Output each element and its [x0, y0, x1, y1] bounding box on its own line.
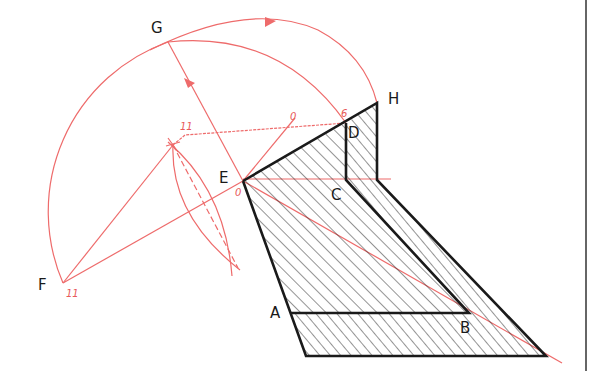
label-F: F: [38, 276, 47, 294]
label-G: G: [151, 19, 163, 37]
line-E-G: [168, 42, 243, 181]
arrow-up-icon: [184, 78, 195, 88]
construction-diagram: 11 0 6 0 11 G H D E C A B F: [0, 0, 595, 371]
lens-arc-right: [168, 142, 232, 276]
label-C: C: [331, 186, 341, 204]
mark-zero-E: 0: [235, 187, 241, 198]
mark-six-D: 6: [341, 108, 347, 119]
line-F-11: [63, 145, 173, 283]
label-H: H: [388, 90, 399, 108]
lens-axis: [173, 145, 238, 268]
label-A: A: [270, 304, 281, 322]
label-E: E: [219, 169, 228, 187]
mark-zero-top: 0: [290, 111, 296, 122]
mark-eleven-top: 11: [180, 121, 193, 132]
arc-G-H-outer: [150, 19, 377, 103]
label-B: B: [460, 319, 470, 337]
line-F-E: [63, 181, 243, 283]
label-D: D: [348, 124, 360, 142]
mark-eleven-F: 11: [66, 288, 79, 299]
arc-F-G: [48, 42, 168, 283]
arc-G-D-inner: [168, 41, 346, 123]
